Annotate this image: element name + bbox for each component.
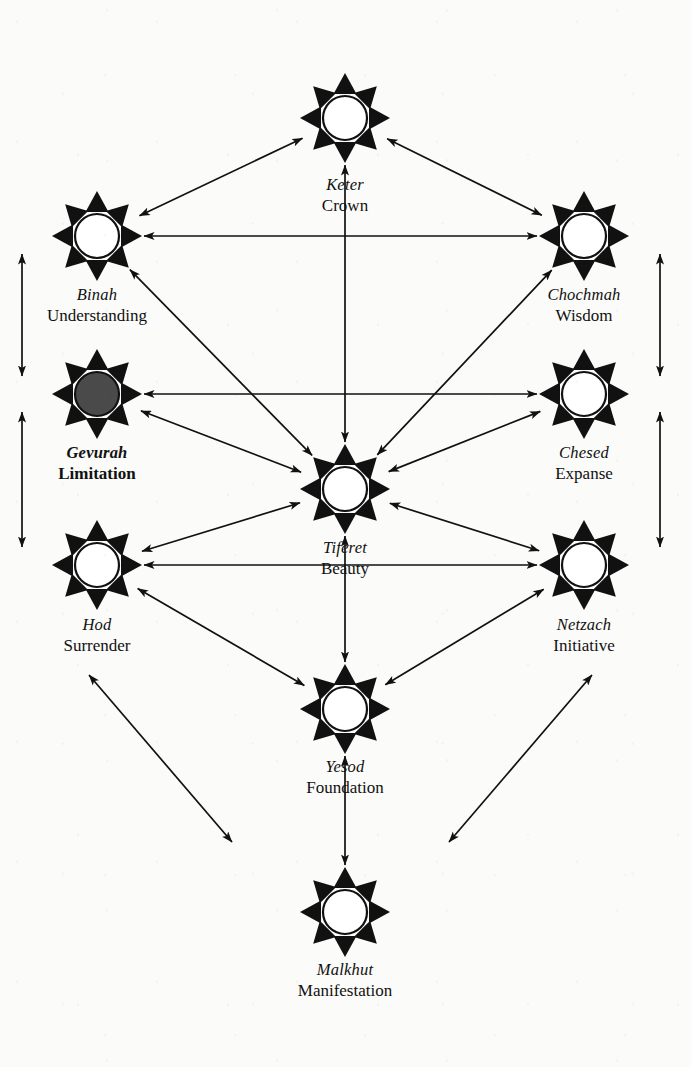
sun-ray (539, 225, 560, 248)
label-layer: KeterCrownBinahUnderstandingChochmahWisd… (47, 175, 621, 1000)
edge-netzach-to-outward-lower-right (449, 675, 592, 842)
sun-ray (334, 733, 357, 754)
node-circle[interactable] (323, 467, 367, 511)
sefira-node-malkhut[interactable] (300, 867, 390, 957)
sun-ray (52, 383, 73, 406)
sun-ray (334, 513, 357, 534)
node-circle[interactable] (562, 543, 606, 587)
node-label-english-chochmah: Wisdom (556, 306, 613, 325)
sun-ray (86, 418, 109, 439)
edge-chochmah-to-keter (387, 139, 542, 215)
sun-ray (334, 867, 357, 888)
sun-ray (573, 349, 596, 370)
node-circle[interactable] (562, 214, 606, 258)
sun-ray (608, 225, 629, 248)
sun-ray (573, 418, 596, 439)
sun-ray (121, 383, 142, 406)
sefira-node-keter[interactable] (300, 73, 390, 163)
sun-ray (334, 73, 357, 94)
sefira-node-netzach[interactable] (539, 520, 629, 610)
sun-ray (334, 444, 357, 465)
node-label-hebrew-chesed: Chesed (559, 443, 609, 462)
node-circle[interactable] (562, 372, 606, 416)
node-label-hebrew-yesod: Yesod (326, 757, 365, 776)
sun-ray (300, 478, 321, 501)
node-label-hebrew-netzach: Netzach (556, 615, 612, 634)
node-label-hebrew-gevurah: Gevurah (67, 443, 128, 462)
node-label-english-hod: Surrender (63, 636, 130, 655)
node-label-english-yesod: Foundation (306, 778, 384, 797)
edge-netzach-to-tiferet (390, 503, 539, 551)
node-circle[interactable] (323, 890, 367, 934)
sun-ray (86, 349, 109, 370)
node-label-hebrew-keter: Keter (325, 175, 364, 194)
edge-binah-to-keter (139, 138, 302, 216)
node-circle[interactable] (323, 96, 367, 140)
node-label-hebrew-malkhut: Malkhut (316, 960, 374, 979)
tree-of-life-diagram: KeterCrownBinahUnderstandingChochmahWisd… (0, 0, 691, 1067)
node-circle[interactable] (323, 687, 367, 731)
edge-chochmah-to-tiferet (377, 270, 551, 455)
sefira-node-chesed[interactable] (539, 349, 629, 439)
sun-ray (300, 107, 321, 130)
sefira-node-chochmah[interactable] (539, 191, 629, 281)
sun-ray (539, 554, 560, 577)
sun-ray (608, 554, 629, 577)
node-label-english-tiferet: Beauty (321, 559, 370, 578)
sun-ray (300, 901, 321, 924)
sefirot-svg-canvas: KeterCrownBinahUnderstandingChochmahWisd… (0, 0, 691, 1067)
sun-ray (86, 260, 109, 281)
sun-ray (52, 225, 73, 248)
sun-ray (86, 520, 109, 541)
sun-ray (369, 901, 390, 924)
node-circle-filled[interactable] (75, 372, 119, 416)
edge-netzach-to-yesod (385, 589, 543, 684)
edge-hod-to-outward-lower-left (89, 675, 232, 842)
sun-ray (369, 698, 390, 721)
sun-ray (300, 698, 321, 721)
sun-ray (334, 664, 357, 685)
sun-ray (334, 142, 357, 163)
node-label-hebrew-tiferet: Tiferet (323, 538, 367, 557)
sefira-node-gevurah[interactable] (52, 349, 142, 439)
sun-ray (369, 107, 390, 130)
sun-ray (573, 520, 596, 541)
node-label-english-malkhut: Manifestation (298, 981, 393, 1000)
sun-ray (334, 936, 357, 957)
sun-ray (539, 383, 560, 406)
sun-ray (121, 225, 142, 248)
sun-ray (573, 260, 596, 281)
node-circle[interactable] (75, 543, 119, 587)
edge-binah-to-tiferet (130, 270, 312, 456)
edge-chesed-to-tiferet (389, 411, 541, 471)
sun-ray (52, 554, 73, 577)
sefira-node-tiferet[interactable] (300, 444, 390, 534)
node-label-hebrew-hod: Hod (81, 615, 112, 634)
node-label-english-netzach: Initiative (553, 636, 614, 655)
sun-ray (121, 554, 142, 577)
node-label-english-gevurah: Limitation (58, 464, 136, 483)
edge-hod-to-yesod (138, 589, 305, 686)
node-label-english-binah: Understanding (47, 306, 148, 325)
sefira-node-hod[interactable] (52, 520, 142, 610)
node-label-english-keter: Crown (322, 196, 369, 215)
sefira-node-binah[interactable] (52, 191, 142, 281)
sun-ray (86, 191, 109, 212)
sun-ray (573, 191, 596, 212)
node-label-english-chesed: Expanse (555, 464, 613, 483)
node-circle[interactable] (75, 214, 119, 258)
sun-ray (608, 383, 629, 406)
sun-ray (573, 589, 596, 610)
node-label-hebrew-binah: Binah (77, 285, 117, 304)
node-label-hebrew-chochmah: Chochmah (547, 285, 620, 304)
sun-ray (86, 589, 109, 610)
sun-ray (369, 478, 390, 501)
sefira-node-yesod[interactable] (300, 664, 390, 754)
edge-hod-to-tiferet (142, 503, 300, 551)
